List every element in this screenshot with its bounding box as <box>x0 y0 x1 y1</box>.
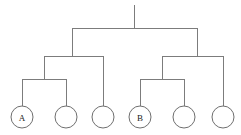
leaf-node-b[interactable]: B <box>129 79 151 128</box>
tree-diagram-canvas: A B <box>0 0 241 135</box>
leaf-circle[interactable] <box>212 106 234 128</box>
leaf-label: A <box>19 113 26 123</box>
level-1-connector <box>72 28 197 56</box>
level-3-connector-right <box>140 56 184 106</box>
leaf-circle[interactable] <box>92 106 114 128</box>
leaf-node-3[interactable] <box>92 56 114 128</box>
level-2-connector-right <box>162 28 223 106</box>
leaf-node-5[interactable] <box>173 79 195 128</box>
leaf-node-a[interactable]: A <box>11 79 33 128</box>
level-connectors-group <box>22 28 223 106</box>
leaf-label: B <box>137 113 143 123</box>
level-2-connector-left <box>44 28 103 106</box>
leaf-circle[interactable] <box>173 106 195 128</box>
level-3-connector-left <box>22 56 66 106</box>
leaf-node-6[interactable] <box>212 56 234 128</box>
tree-diagram: A B <box>0 0 241 135</box>
leaf-node-2[interactable] <box>55 79 77 128</box>
leaf-circle[interactable] <box>55 106 77 128</box>
